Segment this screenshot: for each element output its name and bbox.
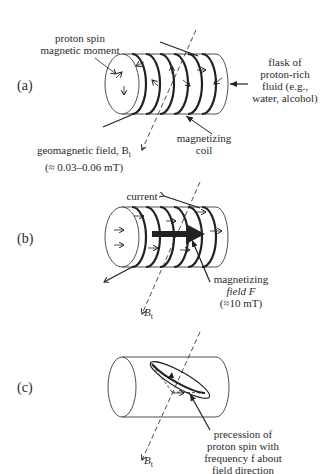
panel-label-b: (b) xyxy=(17,231,33,247)
pointer-precession xyxy=(190,394,210,430)
label-current: current xyxy=(120,190,164,202)
label-magnetizing-field: magnetizing field F (≈10 mT) xyxy=(206,273,276,309)
label-proton-spin: proton spin magnetic moment xyxy=(38,32,122,56)
panel-c-flask xyxy=(108,356,229,417)
label-precession: precession of proton spin with frequency… xyxy=(198,428,288,474)
label-bt-c: Bt xyxy=(144,454,153,471)
panel-label-a: (a) xyxy=(17,78,33,94)
label-magnetizing-coil: magnetizing coil xyxy=(170,132,238,156)
label-flask: flask of proton-rich fluid (e.g., water,… xyxy=(248,56,322,104)
label-geomagnetic-field: geomagnetic field, Bt (≈ 0.03–0.06 mT) xyxy=(28,144,140,173)
magnetizing-coil xyxy=(132,54,216,114)
panel-b-flask xyxy=(104,196,228,282)
precession-ellipse xyxy=(147,356,214,404)
panel-label-c: (c) xyxy=(17,380,33,396)
label-bt-b: Bt xyxy=(144,306,153,323)
